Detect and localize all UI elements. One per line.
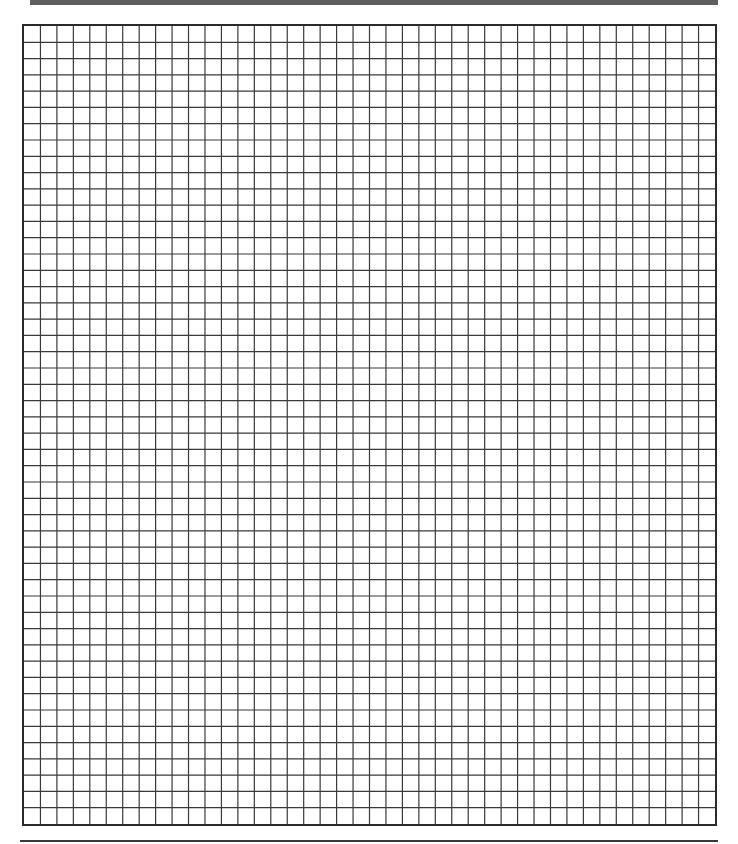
header-bar <box>30 0 718 5</box>
graph-paper-grid <box>22 24 717 826</box>
footer-rule <box>20 840 718 842</box>
grid-lines <box>24 26 715 824</box>
